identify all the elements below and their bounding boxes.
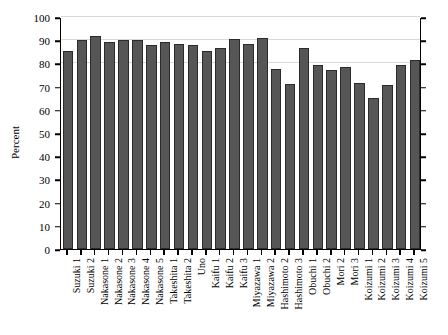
x-axis-tick-label: Suzuki 1 <box>71 258 82 293</box>
x-axis-tick-mark <box>219 250 221 255</box>
x-axis-tick-label: Hashimoto 3 <box>293 258 304 309</box>
x-axis-tick-label: Mori 3 <box>349 258 360 286</box>
x-axis-tick-label: Koizumi 2 <box>376 258 387 301</box>
x-axis-tick-mark <box>358 250 360 255</box>
bar <box>257 38 268 249</box>
x-axis-tick-label: Koizumi 1 <box>363 258 374 301</box>
x-axis-tick-label: Koizumi 3 <box>390 258 401 301</box>
bar <box>118 40 129 249</box>
y-axis-tick-mark-right <box>421 249 426 251</box>
x-axis-tick-mark <box>372 250 374 255</box>
x-axis-tick-label: Kaifu 3 <box>238 258 249 288</box>
bar <box>340 67 351 249</box>
x-axis-tick-mark <box>386 250 388 255</box>
y-axis-tick-mark-right <box>421 203 426 205</box>
bar <box>188 45 199 249</box>
x-axis-tick-mark <box>108 250 110 255</box>
bar <box>271 69 282 249</box>
x-axis-tick-label: Hashimoto 2 <box>279 258 290 309</box>
x-axis-tick-label: Nakasone 5 <box>154 258 165 305</box>
bar <box>382 85 393 249</box>
x-axis-tick-label: Nakasone 2 <box>113 258 124 305</box>
x-axis-tick-mark <box>163 250 165 255</box>
x-axis-tick-mark <box>247 250 249 255</box>
bar <box>174 44 185 249</box>
y-axis-tick-label: 60 <box>39 105 50 117</box>
y-axis-tick-label: 50 <box>39 128 50 140</box>
x-axis-tick-mark <box>122 250 124 255</box>
bar <box>229 39 240 249</box>
bar <box>146 45 157 249</box>
x-axis-tick-label: Kaifu 2 <box>224 258 235 288</box>
x-axis-tick-mark <box>399 250 401 255</box>
x-axis-tick-mark <box>316 250 318 255</box>
bar <box>368 98 379 249</box>
y-axis-tick-mark-right <box>421 17 426 19</box>
x-axis-tick-mark <box>150 250 152 255</box>
y-axis-tick-mark-right <box>421 180 426 182</box>
y-axis-tick-label: 100 <box>34 12 51 24</box>
y-axis-tick-mark-right <box>421 40 426 42</box>
bar-chart: Percent 0102030405060708090100 Suzuki 1S… <box>0 0 448 335</box>
y-axis-tick-mark-right <box>421 110 426 112</box>
bar <box>132 40 143 249</box>
bar <box>326 70 337 249</box>
bar <box>299 48 310 249</box>
y-axis-tick-mark-right <box>421 64 426 66</box>
bar <box>396 65 407 249</box>
x-axis-tick-label: Uno <box>196 258 207 275</box>
x-axis-tick-label: Mori 2 <box>335 258 346 286</box>
x-axis-tick-mark <box>191 250 193 255</box>
x-axis-tick-label: Kaifu 1 <box>210 258 221 288</box>
y-axis-tick-mark-right <box>421 133 426 135</box>
y-axis-tick-label: 10 <box>39 221 50 233</box>
x-axis-tick-label: Takeshita 2 <box>182 258 193 304</box>
y-axis-tick-mark-right <box>421 87 426 89</box>
x-axis-tick-mark <box>330 250 332 255</box>
x-axis-tick-label: Koizumi 4 <box>404 258 415 301</box>
y-axis-tick-label: 20 <box>39 198 50 210</box>
y-axis-tick-label: 90 <box>39 35 50 47</box>
plot-area <box>60 18 421 250</box>
y-axis-tick-label: 40 <box>39 151 50 163</box>
x-axis-tick-label: Obuchi 1 <box>307 258 318 295</box>
x-axis-tick-label: Nakasone 4 <box>140 258 151 305</box>
y-axis-tick-label: 70 <box>39 82 50 94</box>
bar <box>243 44 254 249</box>
x-axis-tick-label: Nakasone 3 <box>126 258 137 305</box>
bar <box>285 84 296 249</box>
bar <box>77 40 88 249</box>
bar <box>104 42 115 249</box>
x-axis-tick-mark <box>80 250 82 255</box>
x-axis-tick-label: Takeshita 1 <box>168 258 179 304</box>
bar <box>354 83 365 249</box>
x-axis-tick-label: Miyazawa 1 <box>251 258 262 307</box>
x-axis-tick-mark <box>136 250 138 255</box>
x-axis-tick-label: Nakasone 1 <box>99 258 110 305</box>
x-axis-tick-mark <box>205 250 207 255</box>
x-axis-tick-mark <box>177 250 179 255</box>
x-axis-tick-label: Koizumi 5 <box>418 258 429 301</box>
x-axis-tick-mark <box>66 250 68 255</box>
x-axis-tick-mark <box>302 250 304 255</box>
x-axis-tick-mark <box>274 250 276 255</box>
bar <box>160 42 171 249</box>
x-axis-tick-label: Miyazawa 2 <box>265 258 276 307</box>
y-axis-tick-label: 80 <box>39 58 50 70</box>
bar <box>215 48 226 249</box>
x-axis-tick-mark <box>233 250 235 255</box>
bar <box>202 51 213 249</box>
x-axis-ticks-and-labels: Suzuki 1Suzuki 2Nakasone 1Nakasone 2Naka… <box>60 250 421 335</box>
y-axis-tick-label: 30 <box>39 174 50 186</box>
bar <box>410 60 421 249</box>
gridline <box>61 16 420 17</box>
y-axis-tick-label: 0 <box>45 244 51 256</box>
y-axis-tick-mark-right <box>421 226 426 228</box>
bar-series <box>61 18 420 249</box>
x-axis-tick-mark <box>344 250 346 255</box>
y-axis-ticks: 0102030405060708090100 <box>0 0 60 335</box>
x-axis-tick-mark <box>94 250 96 255</box>
bar <box>313 65 324 249</box>
x-axis-tick-mark <box>413 250 415 255</box>
bar <box>90 36 101 249</box>
